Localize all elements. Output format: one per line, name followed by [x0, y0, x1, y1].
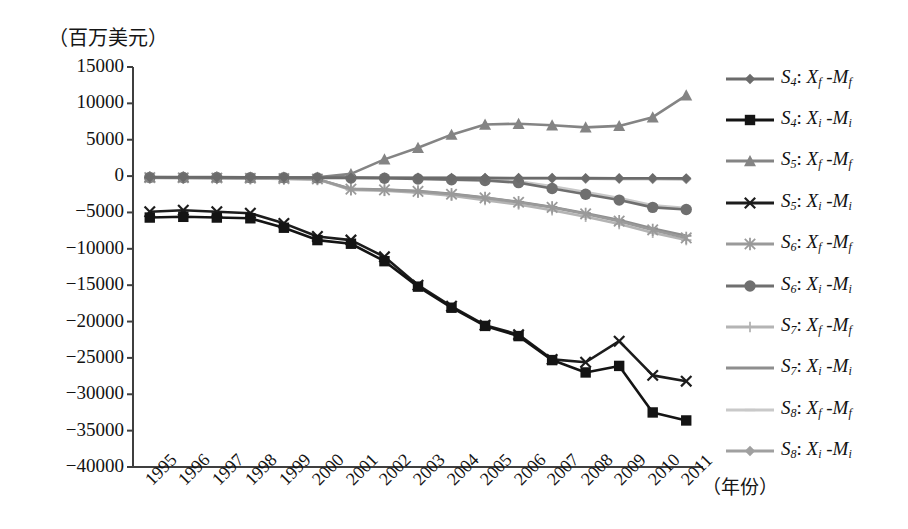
legend-item[interactable]: S4: Xf -Mf: [724, 57, 908, 98]
legend-marker-icon: [724, 69, 776, 87]
legend-marker-icon: [724, 151, 776, 169]
legend-item[interactable]: S5: Xf -Mf: [724, 140, 908, 181]
legend-marker-icon: [724, 193, 776, 211]
legend-marker-icon: [724, 317, 776, 335]
legend-marker-icon: [724, 441, 776, 459]
legend-item[interactable]: S6: Xf -Mf: [724, 223, 908, 264]
legend-item[interactable]: S7: Xf -Mf: [724, 305, 908, 346]
legend-marker-icon: [724, 358, 776, 376]
legend-label: S4: Xf -Mf: [781, 66, 852, 90]
series-line: [145, 205, 692, 386]
chart-legend: S4: Xf -MfS4: Xi -MiS5: Xf -MfS5: Xi -Mi…: [724, 57, 908, 471]
legend-label: S6: Xf -Mf: [781, 231, 852, 255]
legend-marker-icon: [724, 234, 776, 252]
chart-container: （百万美元） 150001000050000−5000−10000−15000−…: [0, 0, 908, 529]
legend-item[interactable]: S8: Xi -Mi: [724, 430, 908, 471]
legend-item[interactable]: S4: Xi -Mi: [724, 98, 908, 139]
legend-label: S5: Xi -Mi: [781, 190, 852, 214]
legend-label: S5: Xf -Mf: [781, 148, 852, 172]
legend-label: S4: Xi -Mi: [781, 107, 852, 131]
series-line: [145, 172, 692, 184]
series-line: [144, 89, 692, 182]
legend-item[interactable]: S5: Xi -Mi: [724, 181, 908, 222]
x-axis-title: （年份）: [702, 472, 778, 499]
legend-marker-icon: [724, 110, 776, 128]
legend-label: S6: Xi -Mi: [781, 273, 852, 297]
legend-label: S7: Xf -Mf: [781, 314, 852, 338]
legend-label: S8: Xf -Mf: [781, 397, 852, 421]
series-line: [145, 212, 692, 426]
legend-marker-icon: [724, 276, 776, 294]
legend-marker-icon: [724, 400, 776, 418]
legend-label: S7: Xi -Mi: [781, 355, 852, 379]
legend-item[interactable]: S6: Xi -Mi: [724, 264, 908, 305]
legend-label: S8: Xi -Mi: [781, 438, 852, 462]
legend-item[interactable]: S8: Xf -Mf: [724, 388, 908, 429]
legend-item[interactable]: S7: Xi -Mi: [724, 347, 908, 388]
